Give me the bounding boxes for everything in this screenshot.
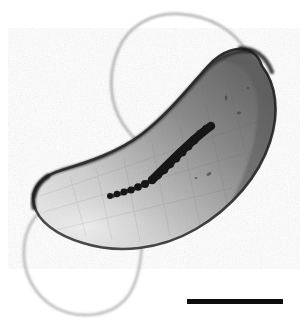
granule bbox=[127, 186, 134, 193]
granule bbox=[134, 183, 142, 191]
granule bbox=[141, 180, 149, 188]
granule bbox=[107, 193, 113, 199]
electron-micrograph-image bbox=[0, 0, 304, 327]
micrograph-figure bbox=[0, 0, 304, 327]
granule bbox=[114, 191, 120, 197]
granule bbox=[202, 125, 210, 133]
scale-bar bbox=[187, 299, 283, 304]
granule bbox=[121, 189, 128, 196]
